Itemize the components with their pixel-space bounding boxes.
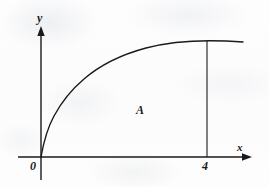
x-tick-label-4: 4 — [202, 160, 208, 172]
x-axis-arrow-icon — [242, 153, 252, 161]
function-curve — [41, 41, 243, 157]
math-figure-area-under-curve: y x 0 4 A — [0, 0, 269, 187]
x-axis-label: x — [237, 142, 243, 153]
y-axis-label: y — [37, 12, 42, 24]
origin-label: 0 — [30, 160, 36, 172]
y-axis-arrow-icon — [37, 26, 44, 36]
region-label-a: A — [136, 104, 144, 116]
coordinate-plot — [0, 0, 269, 187]
